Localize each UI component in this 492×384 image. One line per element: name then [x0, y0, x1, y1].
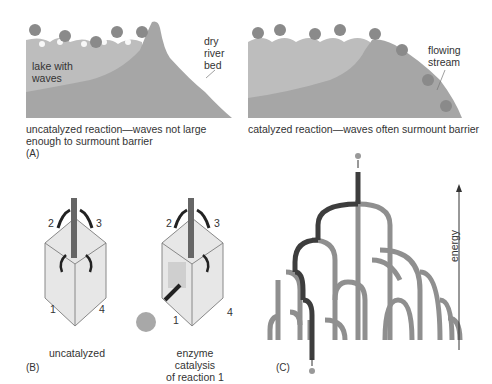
panel-a-letter: (A) [26, 148, 39, 159]
uncatalyzed-caption: uncatalyzed reaction—waves not largeenou… [26, 123, 206, 147]
enzyme-catalysis-box [136, 198, 223, 332]
uncatalyzed-num-3: 3 [96, 217, 102, 229]
catalyzed-landscape [248, 24, 462, 118]
uncatalyzed-label: uncatalyzed [49, 347, 105, 359]
flowing-stream-label: flowingstream [428, 44, 461, 68]
catalyzed-caption: catalyzed reaction—waves often surmount … [248, 123, 479, 135]
lake-label: lake withwaves [32, 60, 73, 84]
energy-axis-label: energy [448, 230, 460, 262]
catalysis-num-2: 2 [166, 217, 172, 229]
enzyme-catalysis-label: enzyme catalysisof reaction 1 [157, 347, 233, 383]
uncatalyzed-num-2: 2 [48, 217, 54, 229]
catalysis-num-4: 4 [227, 306, 233, 318]
catalysis-num-1: 1 [173, 314, 179, 326]
panel-b-letter: (B) [26, 362, 39, 373]
dry-river-bed-label: dryriverbed [204, 35, 224, 71]
uncatalyzed-num-4: 4 [99, 303, 105, 315]
diagram-canvas [0, 0, 492, 384]
energy-pipe-network [270, 153, 460, 374]
catalysis-num-3: 3 [214, 217, 220, 229]
panel-c-letter: (C) [276, 362, 290, 373]
uncatalyzed-num-1: 1 [50, 303, 56, 315]
